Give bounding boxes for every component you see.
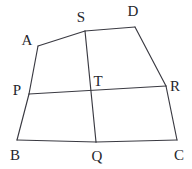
segment-c-q [96,140,177,142]
vertex-label-b: B [10,148,20,163]
vertex-label-r: R [170,79,180,94]
vertex-label-s: S [77,10,85,25]
segment-r-c [166,86,177,140]
segment-p-a [29,46,38,94]
geometry-figure: A D B C S Q P R T [0,0,192,169]
vertex-label-c: C [174,148,184,163]
segment-d-r [135,27,166,86]
segment-s-d [85,27,135,31]
vertex-label-q: Q [92,149,103,164]
segment-q-b [17,140,96,142]
vertex-label-d: D [128,4,139,19]
segment-b-p [17,94,29,140]
vertex-label-p: P [13,83,21,98]
vertex-label-t: T [93,74,102,89]
vertex-label-a: A [22,33,33,48]
segment-a-s [38,31,85,46]
